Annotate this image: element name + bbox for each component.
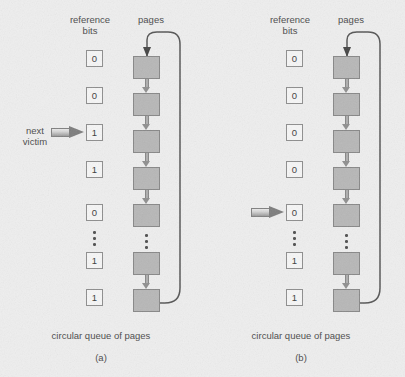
page-box[interactable]: [333, 204, 360, 227]
panel-caption-queue: circular queue of pages: [200, 330, 402, 342]
reference-bits-ellipsis: [90, 228, 100, 246]
next-victim-pointer-arrow-icon: [251, 206, 285, 219]
reference-bit-box[interactable]: 1: [286, 252, 303, 269]
pages-ellipsis: [142, 231, 152, 249]
page-link-arrow-icon: [142, 190, 151, 204]
page-box[interactable]: [333, 93, 360, 116]
panel-letter: (a): [0, 352, 202, 364]
reference-bit-box[interactable]: 0: [286, 204, 303, 221]
panel-letter: (b): [200, 352, 402, 364]
reference-bit-box[interactable]: 1: [86, 289, 103, 306]
panel-b: reference bits pages 0 0 0 0 0 1 1: [200, 0, 402, 377]
page-link-arrow-icon: [142, 153, 151, 167]
page-box[interactable]: [133, 130, 160, 153]
page-link-arrow-icon: [342, 275, 351, 289]
reference-bit-box[interactable]: 0: [286, 161, 303, 178]
page-box[interactable]: [133, 167, 160, 190]
reference-bit-box[interactable]: 0: [86, 87, 103, 104]
reference-bit-box[interactable]: 1: [86, 161, 103, 178]
reference-bit-box[interactable]: 0: [86, 204, 103, 221]
reference-bit-box[interactable]: 1: [286, 289, 303, 306]
page-box[interactable]: [333, 167, 360, 190]
reference-bits-ellipsis: [290, 228, 300, 246]
reference-bit-box[interactable]: 1: [86, 124, 103, 141]
page-box[interactable]: [333, 130, 360, 153]
page-link-arrow-icon: [342, 153, 351, 167]
reference-bit-box[interactable]: 0: [286, 124, 303, 141]
pages-ellipsis: [342, 231, 352, 249]
reference-bit-box[interactable]: 0: [286, 87, 303, 104]
page-link-arrow-icon: [342, 116, 351, 130]
page-link-arrow-icon: [342, 79, 351, 93]
page-box[interactable]: [133, 252, 160, 275]
page-box[interactable]: [333, 252, 360, 275]
page-link-arrow-icon: [142, 275, 151, 289]
reference-bit-box[interactable]: 0: [286, 50, 303, 67]
reference-bit-box[interactable]: 0: [86, 50, 103, 67]
page-box[interactable]: [333, 56, 360, 79]
page-box[interactable]: [333, 289, 360, 312]
page-box[interactable]: [133, 93, 160, 116]
second-chance-clock-algorithm-figure: reference bits pages 0 0 1 1 0 1 1: [0, 0, 405, 377]
reference-bit-box[interactable]: 1: [86, 252, 103, 269]
panel-a: reference bits pages 0 0 1 1 0 1 1: [0, 0, 202, 377]
page-box[interactable]: [133, 204, 160, 227]
page-link-arrow-icon: [142, 79, 151, 93]
page-link-arrow-icon: [142, 116, 151, 130]
panel-caption-queue: circular queue of pages: [0, 330, 202, 342]
page-box[interactable]: [133, 56, 160, 79]
page-box[interactable]: [133, 289, 160, 312]
page-link-arrow-icon: [342, 190, 351, 204]
next-victim-pointer-arrow-icon: [51, 126, 85, 139]
